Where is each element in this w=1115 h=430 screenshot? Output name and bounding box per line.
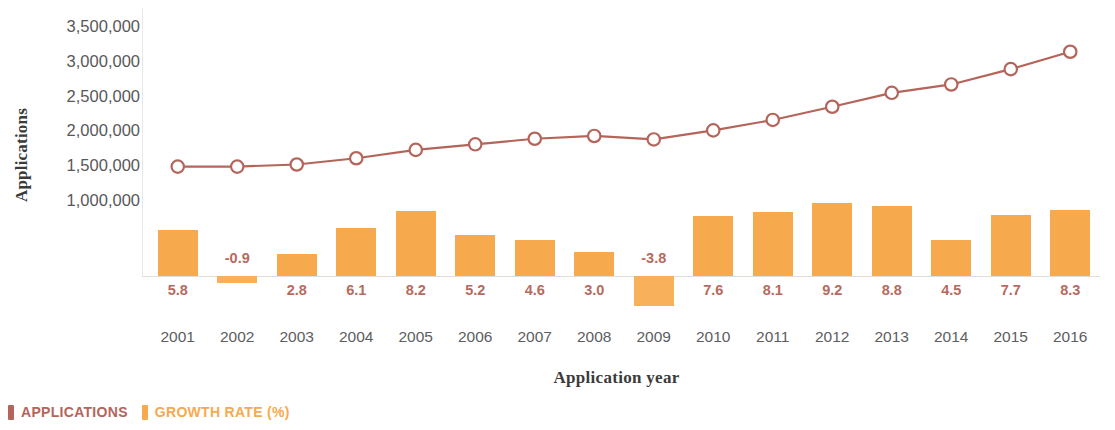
line-marker [826,101,838,113]
y-axis-tick-labels: 1,000,0001,500,0002,000,0002,500,0003,00… [42,0,140,320]
line-marker [767,114,779,126]
y-axis-tick-label: 2,500,000 [42,86,140,105]
line-marker [469,138,481,150]
y-axis-tick-label: 3,500,000 [42,17,140,36]
legend-divider [0,396,1115,397]
line-marker [1064,46,1076,58]
y-axis-title: Applications [12,95,32,215]
line-marker [291,158,303,170]
legend-item[interactable]: GROWTH RATE (%) [142,404,290,420]
line-marker [172,160,184,172]
growth-chart: Applications 1,000,0001,500,0002,000,000… [0,0,1115,430]
line-marker [945,78,957,90]
line-marker [350,152,362,164]
legend-label: APPLICATIONS [21,404,128,420]
chart-legend: APPLICATIONSGROWTH RATE (%) [8,404,290,420]
plot-area: 5.8-0.92.86.18.25.24.63.0-3.87.68.19.28.… [148,0,1100,320]
line-marker [707,124,719,136]
legend-label: GROWTH RATE (%) [155,404,290,420]
y-axis-tick-label: 1,000,000 [42,191,140,210]
line-marker [1005,63,1017,75]
line-marker [588,130,600,142]
x-axis-title: Application year [0,368,1115,388]
line-series [148,0,1100,320]
x-axis-tick-label: 2016 [1035,328,1105,346]
line-marker [231,160,243,172]
y-axis-tick-label: 2,000,000 [42,121,140,140]
x-axis-tick-labels: 2001200220032004200520062007200820092010… [148,328,1100,352]
legend-item[interactable]: APPLICATIONS [8,404,128,420]
line-marker [648,133,660,145]
y-axis-tick-label: 3,000,000 [42,51,140,70]
legend-swatch-icon [8,405,14,420]
line-marker [529,133,541,145]
line-marker [410,144,422,156]
line-marker [886,87,898,99]
legend-swatch-icon [142,405,148,420]
plot-left-rule [142,8,143,276]
x-axis-title-text: Application year [435,368,679,387]
y-axis-tick-label: 1,500,000 [42,156,140,175]
